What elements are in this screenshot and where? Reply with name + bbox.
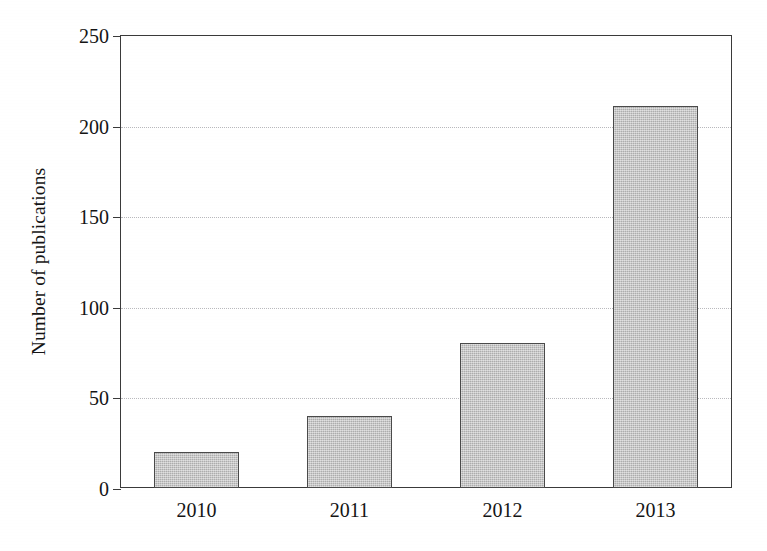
- bars-group: [120, 35, 732, 488]
- y-tick-mark-0: [113, 489, 121, 490]
- y-axis-title: Number of publications: [26, 35, 52, 488]
- x-tick-label-2011: 2011: [273, 495, 426, 525]
- x-tick-label-2012: 2012: [426, 495, 579, 525]
- y-tick-label-50: 50: [89, 385, 109, 411]
- y-tick-label-0: 0: [99, 476, 109, 502]
- bar-2012: [460, 343, 545, 488]
- y-tick-label-150: 150: [79, 204, 109, 230]
- x-tick-label-2010: 2010: [120, 495, 273, 525]
- bar-chart-figure: Number of publications 050100150200250 2…: [0, 0, 767, 551]
- bar-2011: [307, 416, 392, 488]
- y-tick-label-100: 100: [79, 295, 109, 321]
- y-tick-label-200: 200: [79, 114, 109, 140]
- x-tick-label-2013: 2013: [579, 495, 732, 525]
- x-axis-labels-group: 2010201120122013: [120, 495, 732, 529]
- y-tick-label-250: 250: [79, 23, 109, 49]
- bar-2013: [613, 106, 698, 488]
- bar-2010: [154, 452, 239, 488]
